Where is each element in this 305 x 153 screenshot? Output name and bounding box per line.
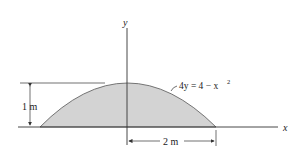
x-axis-label: x	[282, 122, 288, 133]
y-axis-label: y	[122, 17, 128, 28]
parabolic-area-diagram: y x 1 m 2 m 4y = 4 − x 2	[0, 0, 305, 153]
curve-equation-exponent: 2	[227, 78, 230, 85]
half-width-dimension-label: 2 m	[163, 136, 179, 147]
height-dimension-label: 1 m	[22, 101, 38, 112]
curve-equation: 4y = 4 − x	[179, 81, 218, 91]
equation-leader	[171, 86, 177, 91]
